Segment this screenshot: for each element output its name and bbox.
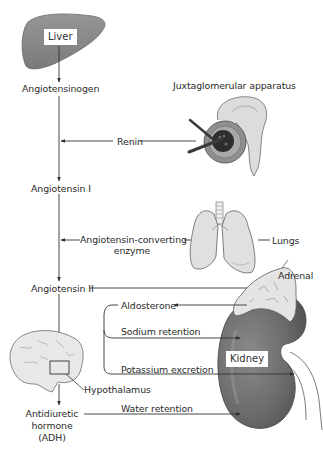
- brain-organ: [10, 331, 84, 392]
- adrenal-label: Adrenal: [278, 270, 313, 281]
- angiotensin2-node: Angiotensin II: [31, 283, 94, 294]
- ace-line2: enzyme: [80, 245, 184, 256]
- diagram-canvas: [0, 0, 323, 455]
- juxtaglomerular-label: Juxtaglomerular apparatus: [173, 80, 296, 91]
- adh-line1: Antidiuretic: [20, 408, 84, 420]
- lungs-label: Lungs: [272, 235, 299, 246]
- angiotensinogen-node: Angiotensinogen: [22, 83, 99, 94]
- renin-enzyme: Renin: [117, 136, 143, 147]
- sodium-retention-effect: Sodium retention: [121, 326, 200, 337]
- aldosterone-effect: Aldosterone: [121, 300, 176, 311]
- lungs-organ: [190, 202, 255, 273]
- adh-line2: hormone: [20, 420, 84, 432]
- water-retention-effect: Water retention: [121, 403, 193, 414]
- juxtaglomerular-organ: [189, 97, 267, 176]
- adh-line3: (ADH): [20, 432, 84, 444]
- potassium-excretion-effect: Potassium excretion: [121, 364, 214, 375]
- angiotensin1-node: Angiotensin I: [31, 183, 91, 194]
- adh-node: Antidiuretic hormone (ADH): [20, 408, 84, 444]
- liver-label: Liver: [44, 29, 77, 45]
- kidney-label: Kidney: [226, 351, 268, 367]
- ace-line1: Angiotensin-converting: [80, 234, 184, 245]
- hypothalamus-label: Hypothalamus: [84, 384, 151, 395]
- ace-enzyme: Angiotensin-converting enzyme: [80, 234, 184, 256]
